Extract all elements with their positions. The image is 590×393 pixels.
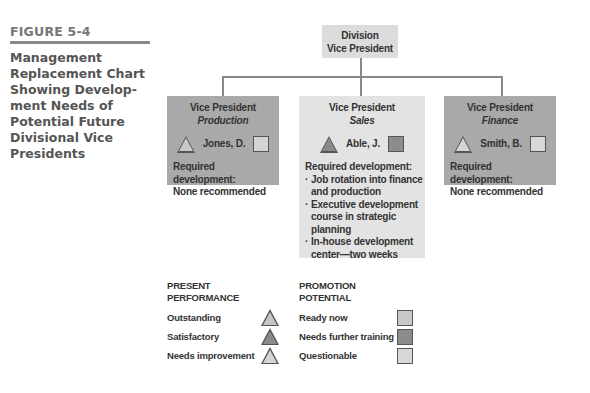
potential-square-icon	[530, 136, 546, 152]
connector-top	[360, 58, 362, 76]
connector-horizontal	[222, 76, 502, 78]
legend-label: Satisfactory	[167, 331, 261, 342]
performance-triangle-icon	[177, 136, 195, 153]
legend-header: PRESENT	[167, 280, 279, 292]
vp-title: Vice President	[444, 102, 556, 115]
vp-title: Vice President	[299, 102, 425, 115]
legend-label: Needs improvement	[167, 350, 261, 361]
performance-triangle-icon	[320, 136, 338, 153]
figure-rule	[10, 41, 150, 44]
candidate-name: Smith, B.	[480, 138, 522, 151]
vp-production-box: Vice President Production Jones, D. Requ…	[167, 96, 279, 185]
ready-now-square-icon	[397, 310, 413, 326]
vp-finance-box: Vice President Finance Smith, B. Require…	[444, 96, 556, 185]
connector-left	[222, 76, 224, 96]
needs-improvement-triangle-icon	[261, 347, 279, 364]
top-line2: Vice President	[322, 43, 398, 56]
vp-dept: Finance	[444, 115, 556, 128]
outstanding-triangle-icon	[261, 309, 279, 326]
vp-dept: Sales	[299, 115, 425, 128]
questionable-square-icon	[397, 348, 413, 364]
dev-item: None recommended	[173, 186, 279, 199]
vp-title: Vice President	[167, 102, 279, 115]
dev-label: Required development:	[173, 161, 279, 186]
candidate-name: Able, J.	[346, 138, 380, 151]
legend-header: PROMOTION	[299, 280, 413, 292]
potential-square-icon	[388, 136, 404, 152]
legend-label: Needs further training	[299, 331, 397, 342]
needs-training-square-icon	[397, 329, 413, 345]
legend-label: Ready now	[299, 312, 397, 323]
performance-triangle-icon	[454, 136, 472, 153]
figure-label: FIGURE 5-4	[10, 24, 91, 39]
division-vp-box: Division Vice President	[322, 25, 398, 58]
vp-sales-box: Vice President Sales Able, J. Required d…	[299, 96, 425, 258]
dev-label: Required development:	[450, 161, 556, 186]
figure-title: Management Replacement Chart Showing Dev…	[10, 50, 160, 162]
legend-potential: PROMOTIONPOTENTIAL Ready now Needs furth…	[299, 280, 413, 365]
dev-item: Executive development course in strategi…	[305, 199, 425, 237]
candidate-name: Jones, D.	[203, 138, 246, 151]
dev-item: In-house development center—two weeks	[305, 236, 425, 261]
legend-label: Outstanding	[167, 312, 261, 323]
satisfactory-triangle-icon	[261, 328, 279, 345]
dev-item: None recommended	[450, 186, 556, 199]
legend-label: Questionable	[299, 350, 397, 361]
legend-header: PERFORMANCE	[167, 292, 279, 304]
connector-right	[501, 76, 503, 96]
vp-dept: Production	[167, 115, 279, 128]
potential-square-icon	[253, 136, 269, 152]
dev-label: Required development:	[305, 161, 425, 174]
connector-middle	[360, 76, 362, 96]
legend-header: POTENTIAL	[299, 292, 413, 304]
dev-item: Job rotation into finance and production	[305, 174, 425, 199]
legend-performance: PRESENTPERFORMANCE Outstanding Satisfact…	[167, 280, 279, 365]
top-line1: Division	[322, 30, 398, 43]
